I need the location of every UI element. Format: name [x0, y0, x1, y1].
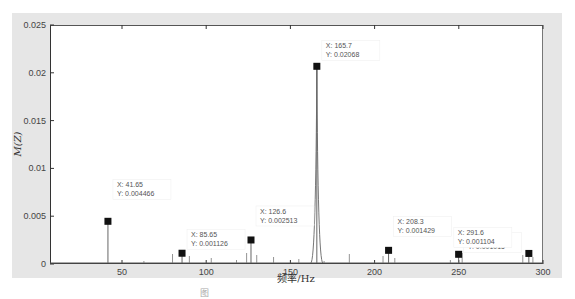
datatip-x: X: 85.65 — [191, 231, 217, 238]
datatip-x: X: 165.7 — [326, 42, 352, 49]
y-tick-label: 0.02 — [28, 68, 46, 78]
x-tick-label: 250 — [451, 267, 466, 277]
spectrum-chart: 00.0050.010.0150.020.025 501001502002503… — [0, 0, 575, 299]
y-tick-label: 0 — [41, 259, 46, 269]
datatip-marker[interactable] — [104, 218, 111, 225]
datatip-marker[interactable] — [385, 247, 392, 254]
datatip-y: Y: 0.001429 — [398, 227, 435, 234]
x-axis-title: 频率/Hz — [277, 272, 314, 284]
datatip-y: Y: 0.02068 — [326, 51, 360, 58]
datatip-x: X: 208.3 — [398, 218, 424, 225]
datatip-y: Y: 0.001126 — [191, 240, 228, 247]
datatips: X: 41.65Y: 0.004466X: 85.65Y: 0.001126X:… — [104, 40, 532, 257]
datatip-y: Y: 0.004466 — [117, 190, 154, 197]
y-tick-label: 0.025 — [23, 20, 46, 30]
datatip-y: Y: 0.002513 — [260, 217, 297, 224]
datatip-marker[interactable] — [525, 250, 532, 257]
datatip-x: X: 41.65 — [117, 181, 143, 188]
x-tick-label: 200 — [367, 267, 382, 277]
datatip-marker[interactable] — [313, 63, 320, 70]
y-tick-label: 0.005 — [23, 211, 46, 221]
datatip-marker[interactable] — [247, 236, 254, 243]
x-tick-label: 100 — [199, 267, 214, 277]
datatip-marker[interactable] — [179, 250, 186, 257]
y-axis: 00.0050.010.0150.020.025 — [23, 20, 54, 269]
y-tick-label: 0.01 — [28, 163, 46, 173]
datatip-x: X: 126.6 — [260, 208, 286, 215]
datatip-x: X: 291.6 — [458, 229, 484, 236]
x-tick-label: 300 — [535, 267, 550, 277]
datatip-marker[interactable] — [455, 251, 462, 258]
y-tick-label: 0.015 — [23, 116, 46, 126]
x-tick-label: 50 — [117, 267, 127, 277]
figure-caption: 图 — [200, 286, 211, 299]
y-axis-title: M(Z) — [12, 131, 23, 157]
datatip-y: Y: 0.001104 — [458, 238, 495, 245]
